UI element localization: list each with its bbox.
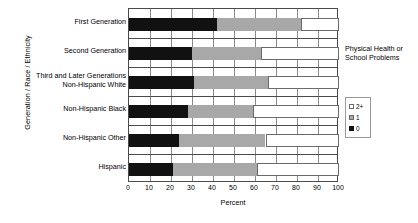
bar-segment-0 (129, 163, 173, 176)
x-tick-label-80: 80 (292, 184, 300, 191)
bar-group (129, 76, 339, 89)
category-label: Third and Later GenerationsNon-Hispanic … (22, 72, 126, 89)
gridline-70 (276, 9, 277, 181)
gridline-60 (255, 9, 256, 181)
x-axis-ticks: 0102030405060708090100 (128, 184, 338, 196)
category-label: Non-Hispanic Black (22, 105, 126, 113)
category-label: Second Generation (22, 47, 126, 55)
bar-segment-0 (129, 47, 192, 60)
bar-segment-1 (179, 134, 265, 147)
bar-segment-2plus (261, 47, 339, 60)
legend-label: 0 (356, 125, 360, 132)
gridline-90 (318, 9, 319, 181)
legend-item[interactable]: 1 (349, 112, 370, 123)
band-separator (129, 67, 337, 68)
legend-swatch-icon (349, 126, 354, 131)
legend-swatch-icon (349, 104, 354, 109)
legend-label: 1 (356, 114, 360, 121)
bar-segment-0 (129, 76, 194, 89)
x-tick-label-30: 30 (187, 184, 195, 191)
legend-title: Physical Health or School Problems (345, 44, 415, 62)
legend: 2+10 (345, 97, 371, 138)
x-axis-title: Percent (128, 198, 338, 207)
category-label-line: Non-Hispanic Black (22, 105, 126, 113)
band-separator (129, 38, 337, 39)
bar-group (129, 47, 339, 60)
gridline-30 (192, 9, 193, 181)
bar-segment-2plus (268, 76, 339, 89)
bar-segment-1 (217, 18, 301, 31)
x-tick-label-20: 20 (166, 184, 174, 191)
x-tick-label-90: 90 (313, 184, 321, 191)
gridline-50 (234, 9, 235, 181)
legend-item[interactable]: 2+ (349, 101, 370, 112)
bar-segment-1 (194, 76, 268, 89)
bar-segment-0 (129, 18, 217, 31)
x-tick-label-60: 60 (250, 184, 258, 191)
x-tick-label-100: 100 (332, 184, 344, 191)
x-tick-label-10: 10 (145, 184, 153, 191)
band-separator (129, 125, 337, 126)
category-label-line: Non-Hispanic Other (22, 134, 126, 142)
bar-segment-1 (188, 105, 253, 118)
bar-segment-0 (129, 134, 179, 147)
bar-group (129, 163, 339, 176)
gridline-10 (150, 9, 151, 181)
stacked-bar-chart: Generation / Race / Ethnicity First Gene… (0, 0, 418, 223)
bar-group (129, 134, 339, 147)
bar-segment-1 (173, 163, 257, 176)
category-label-line: Non-Hispanic White (22, 81, 126, 89)
gridline-40 (213, 9, 214, 181)
category-label-line: Second Generation (22, 47, 126, 55)
gridline-20 (171, 9, 172, 181)
category-label: Non-Hispanic Other (22, 134, 126, 142)
x-tick-label-40: 40 (208, 184, 216, 191)
plot-area (128, 8, 338, 182)
bar-group (129, 18, 339, 31)
legend-item[interactable]: 0 (349, 123, 370, 134)
bar-segment-2plus (257, 163, 339, 176)
bar-segment-2plus (253, 105, 339, 118)
category-axis-labels: First GenerationSecond GenerationThird a… (22, 8, 126, 182)
gridline-80 (297, 9, 298, 181)
bar-segment-2plus (266, 134, 340, 147)
category-label-line: Hispanic (22, 163, 126, 171)
bar-group (129, 105, 339, 118)
legend-label: 2+ (356, 103, 363, 110)
x-tick-label-0: 0 (126, 184, 130, 191)
x-tick-label-70: 70 (271, 184, 279, 191)
category-label-line: First Generation (22, 18, 126, 26)
category-label: Hispanic (22, 163, 126, 171)
bar-segment-1 (192, 47, 261, 60)
bar-segment-0 (129, 105, 188, 118)
band-separator (129, 96, 337, 97)
bar-segment-2plus (301, 18, 339, 31)
category-label: First Generation (22, 18, 126, 26)
band-separator (129, 154, 337, 155)
legend-swatch-icon (349, 115, 354, 120)
x-tick-label-50: 50 (229, 184, 237, 191)
